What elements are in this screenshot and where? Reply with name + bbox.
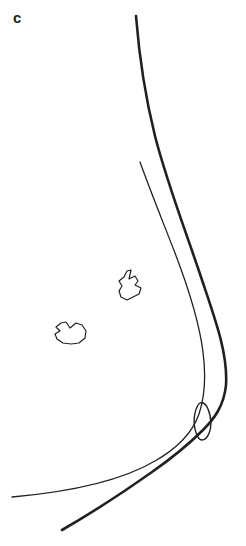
lesion-upper-path <box>119 270 141 300</box>
lesion-lower-path <box>55 322 86 344</box>
inner-breast-contour-path <box>12 162 205 497</box>
outer-breast-contour-path <box>62 16 226 530</box>
figure-panel: c <box>0 0 246 546</box>
breast-profile-drawing <box>0 0 246 546</box>
drawing-ink-group <box>12 16 226 530</box>
